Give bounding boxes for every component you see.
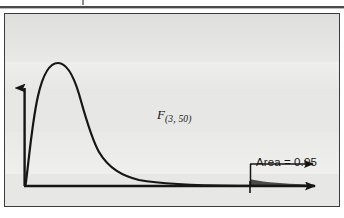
distribution-label: F(3, 50): [157, 108, 192, 125]
plot-panel: F(3, 50) Area = 0.05 0 2.79: [4, 13, 340, 207]
distribution-subscript: (3, 50): [165, 114, 192, 124]
page-top-rule-shadow: [0, 8, 344, 9]
figure-root: F(3, 50) Area = 0.05 0 2.79: [0, 0, 344, 218]
distribution-symbol: F: [157, 107, 165, 122]
scan-artifact-speck: [82, 0, 84, 5]
area-annotation-label: Area = 0.05: [256, 157, 317, 169]
x-axis-tick-label-critical-value: 2.79: [243, 205, 267, 207]
x-axis-tick-label-origin: 0: [24, 205, 31, 207]
